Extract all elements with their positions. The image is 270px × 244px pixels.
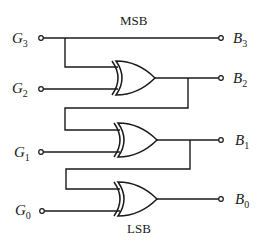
input-g3-label: G3 — [12, 30, 28, 49]
input-g0: G0 — [15, 202, 44, 221]
input-g1-label: G1 — [14, 144, 30, 163]
output-b1-terminal — [219, 138, 224, 143]
input-g1-terminal — [39, 150, 44, 155]
output-b3: B3 — [219, 30, 247, 49]
output-b2-terminal — [219, 76, 224, 81]
wire-b1-gate3 — [66, 140, 190, 189]
wire-b2-gate2 — [65, 78, 188, 130]
input-g3-terminal — [39, 36, 44, 41]
output-b2-label: B2 — [233, 70, 247, 89]
input-g2: G2 — [12, 80, 43, 99]
output-b1-label: B1 — [235, 132, 249, 151]
output-b2: B2 — [219, 70, 247, 89]
xor-gate-3-body — [118, 182, 157, 216]
input-g0-terminal — [40, 209, 45, 214]
input-g0-label: G0 — [15, 202, 31, 221]
xor-gate-2 — [114, 123, 157, 157]
output-b0-label: B0 — [235, 191, 249, 210]
input-g3: G3 — [12, 30, 43, 49]
output-b0: B0 — [219, 191, 249, 210]
xor-gate-1-extra-arc — [112, 61, 118, 95]
converter-diagram: MSB G3 B3 G2 B2 G1 — [0, 0, 270, 244]
wire-g3-gate1 — [65, 38, 118, 67]
xor-gate-3 — [114, 182, 157, 216]
input-g2-terminal — [39, 87, 44, 92]
xor-gate-1-body — [116, 61, 155, 95]
output-b0-terminal — [219, 197, 224, 202]
input-g1: G1 — [14, 144, 43, 163]
xor-gate-2-body — [118, 123, 157, 157]
input-g2-label: G2 — [12, 80, 28, 99]
output-b3-label: B3 — [233, 30, 247, 49]
output-b1: B1 — [219, 132, 249, 151]
output-b3-terminal — [219, 36, 224, 41]
msb-label: MSB — [120, 13, 148, 28]
xor-gate-1 — [112, 61, 155, 95]
lsb-label: LSB — [127, 221, 151, 236]
